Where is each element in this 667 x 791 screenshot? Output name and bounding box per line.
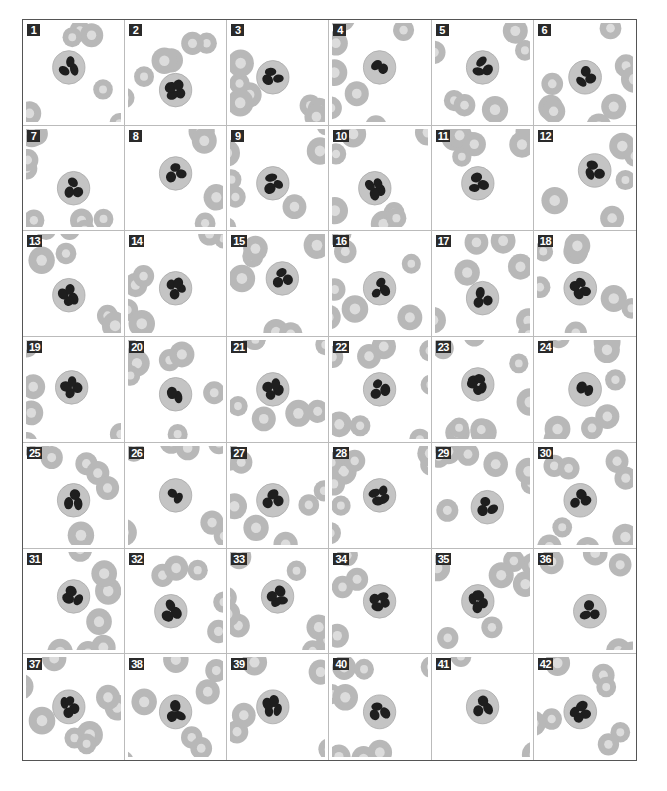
red-blood-cell (283, 194, 307, 219)
micrograph-panel: 19 (23, 337, 125, 443)
neutrophil-image-grid: 1 2 3 4 5 6 7 8 9 10 11 12 13 14 15 16 1… (22, 19, 637, 761)
red-blood-cell (435, 307, 446, 333)
panel-number-label: 13 (27, 235, 42, 247)
micrograph-panel: 23 (432, 337, 534, 443)
red-blood-cell (246, 340, 266, 350)
neutrophil (569, 373, 602, 407)
red-blood-cell (453, 94, 475, 116)
red-blood-cell (192, 129, 217, 154)
blood-smear-image (26, 657, 121, 757)
red-blood-cell (490, 234, 515, 254)
blood-smear-image (128, 657, 223, 757)
red-blood-cell (309, 660, 326, 685)
red-blood-cell (68, 552, 92, 562)
red-blood-cell (509, 131, 530, 157)
panel-number-label: 32 (129, 553, 144, 565)
red-blood-cell (96, 685, 120, 710)
red-blood-cell (557, 457, 579, 479)
panel-number-label: 39 (231, 658, 246, 670)
blood-smear-image (230, 657, 325, 757)
red-blood-cell (575, 537, 599, 545)
red-blood-cell (552, 517, 572, 537)
red-blood-cell (230, 265, 255, 293)
panel-number-label: 15 (231, 235, 246, 247)
panel-number-label: 34 (333, 553, 348, 565)
red-blood-cell (110, 113, 122, 122)
red-blood-cell (402, 254, 421, 274)
micrograph-panel: 35 (432, 549, 534, 655)
micrograph-panel: 6 (534, 20, 636, 126)
red-blood-cell (368, 740, 392, 757)
blood-smear-image (435, 657, 530, 757)
neutrophil (53, 690, 85, 724)
blood-smear-image (332, 234, 427, 333)
red-blood-cell (332, 97, 342, 120)
red-blood-cell (307, 614, 326, 640)
red-blood-cell (345, 81, 369, 106)
micrograph-panel: 3 (227, 20, 329, 126)
neutrophil (461, 166, 493, 200)
red-blood-cell (207, 619, 223, 642)
neutrophil (461, 368, 493, 402)
red-blood-cell (332, 495, 351, 515)
red-blood-cell (299, 494, 320, 515)
red-blood-cell (605, 369, 626, 390)
red-blood-cell (169, 342, 194, 368)
red-blood-cell (96, 476, 119, 500)
panel-number-label: 2 (129, 24, 142, 36)
blood-smear-image (230, 23, 325, 122)
neutrophil (359, 171, 391, 205)
micrograph-panel: 37 (23, 654, 125, 760)
blood-smear-image (332, 446, 427, 545)
red-blood-cell (342, 296, 369, 324)
blood-smear-image (128, 129, 223, 228)
blood-smear-image (332, 552, 427, 651)
red-blood-cell (63, 27, 82, 47)
blood-smear-image (26, 446, 121, 545)
neutrophil (564, 272, 597, 306)
micrograph-panel: 26 (125, 443, 227, 549)
blood-smear-image (537, 657, 633, 757)
micrograph-panel: 12 (534, 126, 636, 232)
red-blood-cell (286, 400, 312, 427)
micrograph-panel: 21 (227, 337, 329, 443)
red-blood-cell (164, 555, 188, 580)
red-blood-cell (522, 742, 530, 757)
red-blood-cell (332, 143, 346, 164)
neutrophil (55, 371, 87, 405)
red-blood-cell (77, 734, 97, 755)
neutrophil (160, 478, 192, 512)
blood-smear-image (128, 446, 223, 545)
red-blood-cell (387, 207, 407, 227)
red-blood-cell (541, 187, 568, 214)
red-blood-cell (204, 184, 224, 210)
red-blood-cell (415, 129, 427, 145)
micrograph-panel: 13 (23, 231, 125, 337)
panel-number-label: 41 (436, 658, 451, 670)
red-blood-cell (355, 659, 375, 680)
red-blood-cell (332, 305, 341, 330)
red-blood-cell (316, 340, 326, 355)
neutrophil (160, 272, 192, 306)
red-blood-cell (230, 49, 254, 77)
red-blood-cell (26, 401, 43, 426)
neutrophil (257, 690, 289, 724)
panel-number-label: 9 (231, 130, 244, 142)
red-blood-cell (609, 553, 632, 576)
red-blood-cell (42, 657, 66, 671)
blood-smear-image (230, 234, 325, 333)
red-blood-cell (287, 560, 307, 580)
panel-number-label: 20 (129, 341, 144, 353)
panel-number-label: 18 (538, 235, 553, 247)
panel-number-label: 33 (231, 553, 246, 565)
red-blood-cell (565, 322, 587, 333)
red-blood-cell (168, 424, 188, 439)
red-blood-cell (599, 23, 621, 39)
red-blood-cell (128, 88, 135, 108)
neutrophil (564, 483, 597, 517)
red-blood-cell (482, 96, 508, 122)
panel-number-label: 12 (538, 130, 553, 142)
micrograph-panel: 36 (534, 549, 636, 655)
blood-smear-image (332, 23, 427, 122)
micrograph-panel: 24 (534, 337, 636, 443)
